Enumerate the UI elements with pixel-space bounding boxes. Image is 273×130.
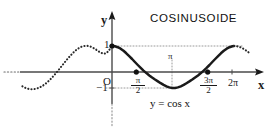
point-marker-zero-3pi-2	[205, 69, 210, 74]
cosine-curve-right-extension	[234, 46, 249, 52]
x-tick-label-pi: π	[168, 52, 173, 61]
chart-title: COSINUSOIDE	[150, 13, 237, 25]
point-marker-zero-pi-2	[134, 69, 139, 74]
point-marker-max-0-1	[109, 43, 114, 48]
x-tick-label-2pi: 2π	[228, 78, 238, 88]
x-tick-3pi-over-2-denominator: 2	[200, 86, 217, 95]
y-tick-label-1: 1	[104, 39, 110, 50]
x-tick-label-3pi-over-2: 3π 2	[200, 76, 217, 96]
y-axis-label: y	[101, 14, 107, 27]
cosine-graph-figure: COSINUSOIDE y x O 1 −1 π 2 π 3π 2 2π y =…	[0, 0, 273, 130]
y-tick-label-minus-1: −1	[96, 82, 108, 93]
x-tick-label-pi-over-2: π 2	[131, 76, 145, 96]
x-axis-label: x	[258, 79, 264, 92]
x-tick-pi-over-2-denominator: 2	[131, 86, 145, 95]
equation-label: y = cos x	[150, 98, 190, 109]
